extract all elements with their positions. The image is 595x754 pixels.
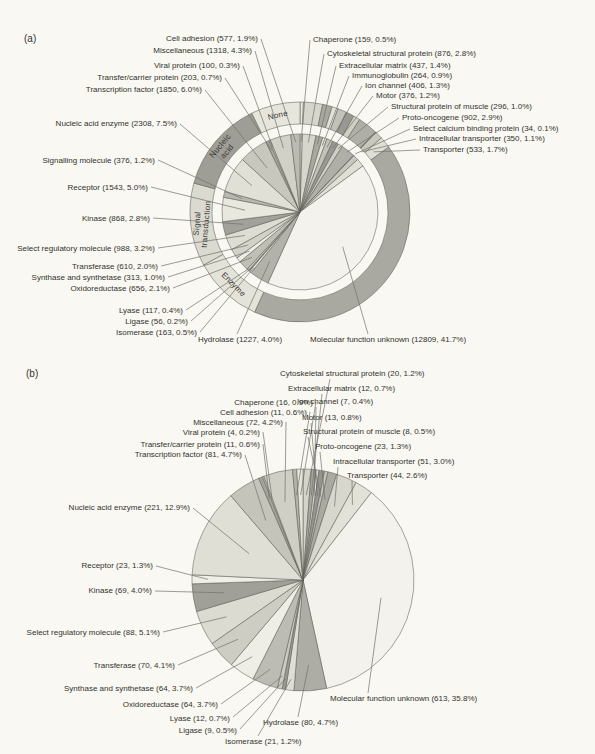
slice-label: Oxidoreductase (64, 3.7%) <box>123 700 218 709</box>
slice-label: Signalling molecule (376, 1.2%) <box>42 156 155 165</box>
slice-label: Ligase (9, 0.5%) <box>179 726 237 735</box>
slice-label: Molecular function unknown (12809, 41.7%… <box>310 335 466 344</box>
slice-label: Motor (376, 1.2%) <box>376 91 440 100</box>
slice-label: Chaperone (159, 0.5%) <box>313 35 396 44</box>
slice-label: Lyase (117, 0.4%) <box>119 306 183 315</box>
slice-label: Transcription factor (81, 4.7%) <box>135 450 242 459</box>
ring-label-line: Enzyme <box>219 271 247 299</box>
slice-label: Transporter (44, 2.6%) <box>347 471 427 480</box>
slice-label: Miscellaneous (1318, 4.3%) <box>153 46 252 55</box>
ring-label-line: None <box>267 110 289 123</box>
slice-label: Cell adhesion (11, 0.6%) <box>220 408 307 417</box>
slice-label: Nucleic acid enzyme (2308, 7.5%) <box>56 119 177 128</box>
slice-label: Chaperone (16, 0.9%) <box>234 398 313 407</box>
slice-label: Kinase (868, 2.8%) <box>82 214 150 223</box>
slice-label: Isomerase (21, 1.2%) <box>225 737 301 746</box>
slice-label: Ion channel (406, 1.3%) <box>365 81 450 90</box>
label-layer: (a) (b) Chaperone (159, 0.5%)Cytoskeleta… <box>0 0 595 754</box>
slice-label: Cytoskeletal structural protein (20, 1.2… <box>280 369 425 378</box>
ring-group-label: Enzyme <box>219 271 247 299</box>
slice-label: Motor (13, 0.8%) <box>302 413 362 422</box>
slice-label: Viral protein (100, 0.3%) <box>154 61 240 70</box>
slice-label: Nucleic acid enzyme (221, 12.9%) <box>69 503 190 512</box>
panel-a-label: (a) <box>24 33 36 44</box>
slice-label: Transfer/carrier protein (11, 0.6%) <box>140 440 260 449</box>
slice-label: Transporter (533, 1.7%) <box>423 145 508 154</box>
slice-label: Extracellular matrix (12, 0.7%) <box>288 384 395 393</box>
slice-label: Extracellular matrix (437, 1.4%) <box>339 61 451 70</box>
slice-label: Cell adhesion (577, 1.9%) <box>166 34 258 43</box>
slice-label: Hydrolase (1227, 4.0%) <box>198 335 282 344</box>
slice-label: Transferase (70, 4.1%) <box>93 661 175 670</box>
slice-label: Proto-oncogene (902, 2.9%) <box>402 113 503 122</box>
slice-label: Intracellular transporter (51, 3.0%) <box>333 457 454 466</box>
slice-label: Receptor (1543, 5.0%) <box>68 183 149 192</box>
slice-label: Miscellaneous (72, 4.2%) <box>193 418 283 427</box>
slice-label: Receptor (23, 1.3%) <box>81 561 153 570</box>
slice-label: Synthase and synthetase (313, 1.0%) <box>32 273 165 282</box>
slice-label: Hydrolase (80, 4.7%) <box>263 718 338 727</box>
ring-group-label: Nucleicacid <box>208 133 239 166</box>
slice-label: Isomerase (163, 0.5%) <box>116 328 197 337</box>
slice-label: Cytoskeletal structural protein (876, 2.… <box>327 49 476 58</box>
panel-b-label: (b) <box>26 368 38 379</box>
slice-label: Oxidoreductase (656, 2.1%) <box>70 284 170 293</box>
slice-label: Proto-oncogene (23, 1.3%) <box>315 442 411 451</box>
slice-label: Synthase and synthetase (64, 3.7%) <box>64 684 193 693</box>
ring-group-label: Signaltransduction <box>191 200 212 248</box>
slice-label: Transferase (610, 2.0%) <box>72 262 158 271</box>
slice-label: Select regulatory molecule (988, 3.2%) <box>17 244 155 253</box>
slice-label: Intracellular transporter (350, 1.1%) <box>419 134 545 143</box>
figure-page: (a) (b) Chaperone (159, 0.5%)Cytoskeleta… <box>0 0 595 754</box>
slice-label: Structural protein of muscle (296, 1.0%) <box>391 102 532 111</box>
slice-label: Kinase (69, 4.0%) <box>88 586 152 595</box>
slice-label: Transfer/carrier protein (203, 0.7%) <box>97 73 222 82</box>
slice-label: Lyase (12, 0.7%) <box>170 714 230 723</box>
slice-label: Ligase (56, 0.2%) <box>125 317 188 326</box>
slice-label: Immunoglobulin (264, 0.9%) <box>352 71 452 80</box>
slice-label: Transcription factor (1850, 6.0%) <box>86 85 202 94</box>
slice-label: Viral protein (4, 0.2%) <box>183 428 260 437</box>
slice-label: Select calcium binding protein (34, 0.1%… <box>413 124 558 133</box>
slice-label: Select regulatory molecule (88, 5.1%) <box>27 628 160 637</box>
slice-label: Molecular function unknown (613, 35.8%) <box>330 694 477 703</box>
ring-group-label: None <box>267 110 289 123</box>
slice-label: Structural protein of muscle (8, 0.5%) <box>303 427 435 436</box>
